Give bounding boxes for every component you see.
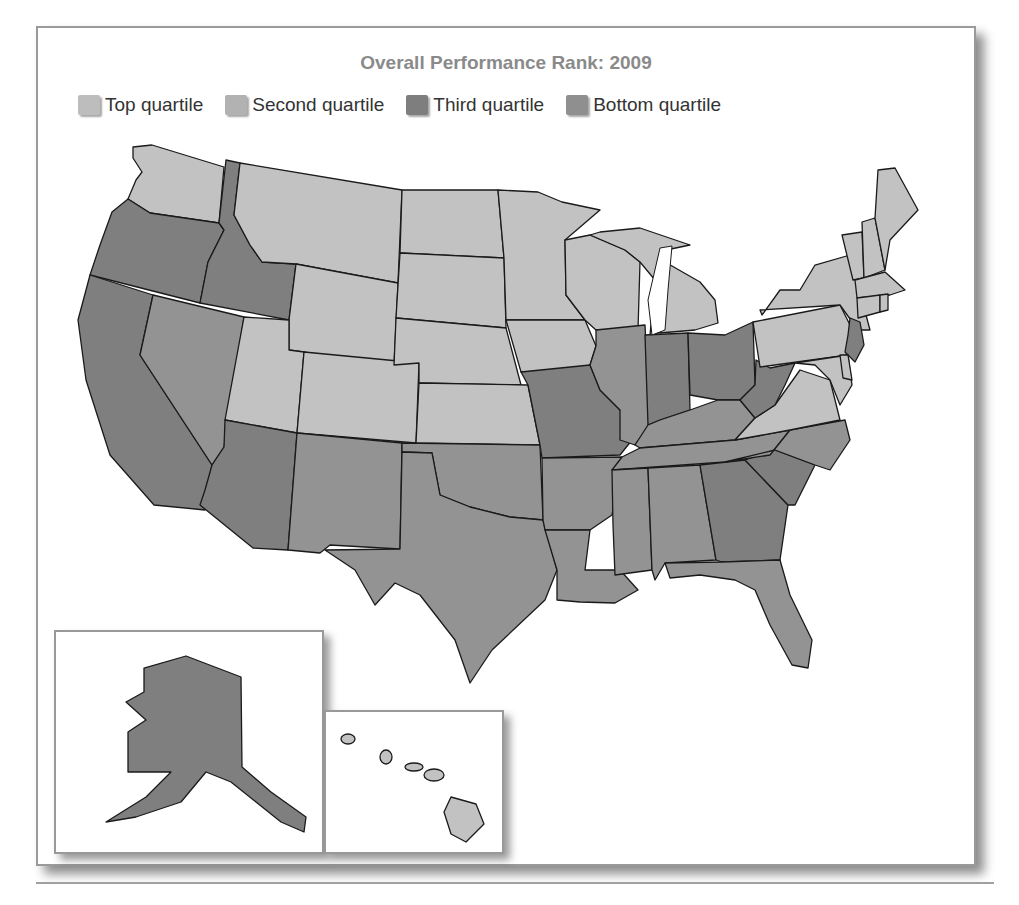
state-alaska[interactable] bbox=[106, 656, 306, 832]
state-mississippi[interactable] bbox=[612, 468, 652, 575]
island-molokai[interactable] bbox=[405, 763, 423, 771]
state-colorado[interactable] bbox=[297, 352, 419, 443]
state-ohio[interactable] bbox=[688, 322, 755, 400]
alaska-map bbox=[56, 632, 322, 852]
state-maine[interactable] bbox=[875, 168, 918, 270]
bottom-rule bbox=[36, 882, 994, 884]
island-kauai[interactable] bbox=[341, 734, 355, 744]
state-kansas[interactable] bbox=[416, 383, 540, 445]
state-rhode-island[interactable] bbox=[880, 294, 888, 312]
state-connecticut[interactable] bbox=[857, 295, 880, 318]
alaska-inset bbox=[54, 630, 324, 854]
state-iowa[interactable] bbox=[506, 320, 596, 372]
island-maui[interactable] bbox=[424, 769, 444, 781]
state-indiana[interactable] bbox=[645, 333, 690, 425]
state-south-dakota[interactable] bbox=[396, 253, 506, 328]
island-oahu[interactable] bbox=[380, 750, 392, 764]
hawaii-inset bbox=[324, 710, 504, 854]
island-hawaii[interactable] bbox=[444, 797, 484, 842]
state-north-dakota[interactable] bbox=[400, 190, 504, 258]
hawaii-map bbox=[326, 712, 502, 852]
state-new-mexico[interactable] bbox=[288, 433, 402, 553]
state-florida[interactable] bbox=[665, 560, 812, 668]
state-arkansas[interactable] bbox=[542, 457, 622, 530]
